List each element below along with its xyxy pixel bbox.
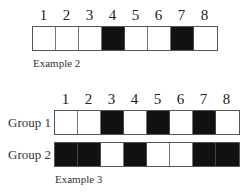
- example-2-cell-1-empty: [33, 27, 56, 50]
- group-2-cell-8-filled: [216, 143, 239, 166]
- group-2-cell-row: [54, 142, 240, 167]
- example-2-cell-8-empty: [194, 27, 217, 50]
- group-1-cell-7-filled: [193, 111, 216, 134]
- example-3-number-2: 2: [77, 91, 100, 107]
- group-1-cell-5-filled: [147, 111, 170, 134]
- example-3-number-7: 7: [192, 91, 215, 107]
- example-2-number-2: 2: [55, 7, 78, 23]
- example-2-cell-row: [32, 26, 218, 51]
- group-2-label: Group 2: [8, 148, 51, 162]
- example-2-number-1: 1: [32, 7, 55, 23]
- example-2-number-5: 5: [124, 7, 147, 23]
- example-3-number-3: 3: [100, 91, 123, 107]
- group-1-label: Group 1: [8, 116, 51, 130]
- example-2-cell-3-empty: [79, 27, 102, 50]
- example-3-number-6: 6: [169, 91, 192, 107]
- example-3-number-4: 4: [123, 91, 146, 107]
- example-2-number-3: 3: [78, 7, 101, 23]
- group-1-cell-row: [54, 110, 240, 135]
- group-2-cell-6-empty: [170, 143, 193, 166]
- example-2-cell-6-empty: [148, 27, 171, 50]
- example-3-number-8: 8: [215, 91, 238, 107]
- example-3-number-1: 1: [54, 91, 77, 107]
- example-2-cell-5-empty: [125, 27, 148, 50]
- example-2-number-4: 4: [101, 7, 124, 23]
- example-3-caption: Example 3: [55, 173, 102, 185]
- group-2-cell-7-filled: [193, 143, 216, 166]
- group-1-cell-6-empty: [170, 111, 193, 134]
- group-2-cell-1-filled: [55, 143, 78, 166]
- example-2-number-7: 7: [170, 7, 193, 23]
- example-2-number-8: 8: [193, 7, 216, 23]
- group-2-cell-2-filled: [78, 143, 101, 166]
- example-2-cell-2-empty: [56, 27, 79, 50]
- example-2-number-6: 6: [147, 7, 170, 23]
- group-1-cell-2-empty: [78, 111, 101, 134]
- group-2-cell-4-filled: [124, 143, 147, 166]
- example-2-cell-7-filled: [171, 27, 194, 50]
- group-1-cell-3-filled: [101, 111, 124, 134]
- group-1-cell-1-empty: [55, 111, 78, 134]
- group-2-cell-3-empty: [101, 143, 124, 166]
- example-3-number-5: 5: [146, 91, 169, 107]
- group-1-cell-4-empty: [124, 111, 147, 134]
- group-2-cell-5-empty: [147, 143, 170, 166]
- example-2-caption: Example 2: [33, 57, 80, 69]
- example-2-cell-4-filled: [102, 27, 125, 50]
- group-1-cell-8-empty: [216, 111, 239, 134]
